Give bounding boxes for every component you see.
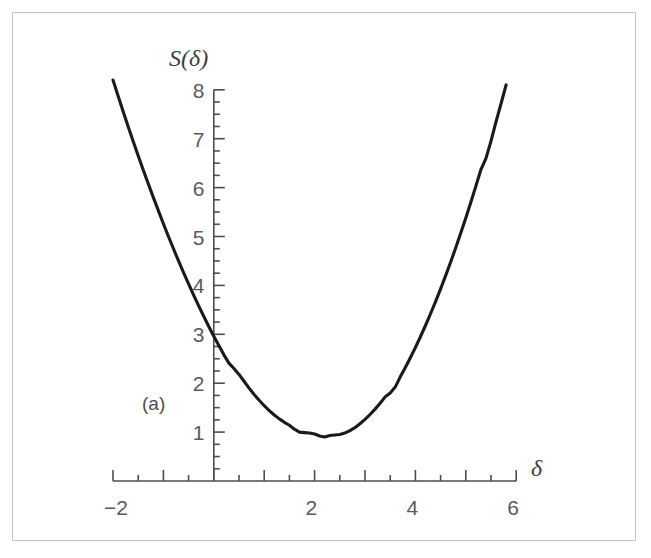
x-tick-label: 6 xyxy=(507,497,519,518)
x-axis xyxy=(113,470,516,481)
y-tick-label: 7 xyxy=(193,129,205,150)
figure-border: −224612345678 S(δ) δ (a) xyxy=(12,12,636,541)
x-axis-title: δ xyxy=(531,456,542,480)
curve-s-delta xyxy=(113,80,506,437)
figure-panel: −224612345678 S(δ) δ (a) xyxy=(0,0,651,558)
y-tick-label: 1 xyxy=(193,422,205,443)
y-tick-label: 2 xyxy=(193,373,205,394)
data-series-group xyxy=(113,80,506,437)
chart-canvas xyxy=(13,13,637,542)
panel-label: (a) xyxy=(142,394,165,413)
y-tick-label: 3 xyxy=(193,324,205,345)
x-tick-label: 4 xyxy=(406,497,418,518)
x-tick-label: 2 xyxy=(306,497,318,518)
axes-group xyxy=(113,90,516,481)
y-axis-title: S(δ) xyxy=(169,46,208,70)
y-tick-label: 5 xyxy=(193,227,205,248)
y-tick-label: 4 xyxy=(193,275,205,296)
x-tick-label: −2 xyxy=(104,497,128,518)
y-tick-label: 6 xyxy=(193,178,205,199)
clipped-header-text xyxy=(150,0,470,8)
y-tick-label: 8 xyxy=(193,80,205,101)
y-axis xyxy=(214,90,225,481)
